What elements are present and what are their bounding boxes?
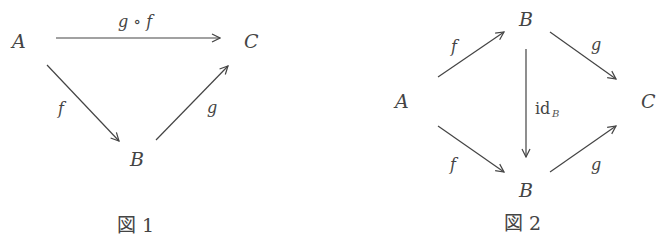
arrow-b-bottom-to-c <box>550 126 616 172</box>
arrow-label-g-top: g <box>591 35 601 54</box>
object-b-bottom: B <box>518 179 533 201</box>
arrow-label-f-bottom: f <box>449 155 459 174</box>
arrow-label-f: f <box>57 99 67 118</box>
arrow-b-top-to-c <box>550 32 616 79</box>
figure-2-caption: 図 2 <box>504 212 541 234</box>
object-a: A <box>393 90 409 112</box>
object-b-top: B <box>518 8 533 30</box>
arrow-label-id-subscript: B <box>551 108 559 119</box>
arrow-label-g-compose-f: g ∘ f <box>118 12 155 31</box>
arrow-a-to-b-bottom <box>438 126 504 172</box>
figure-1: A C B g ∘ f f g 図 1 <box>10 12 259 236</box>
object-a: A <box>10 30 26 52</box>
object-c: C <box>641 90 656 112</box>
object-c: C <box>244 30 259 52</box>
arrow-label-id: id <box>535 99 550 118</box>
arrow-label-g-bottom: g <box>591 155 601 174</box>
arrow-label-g: g <box>207 98 217 117</box>
object-b: B <box>129 148 144 170</box>
figure-2: B A C B f g id B f g 図 2 <box>393 8 656 234</box>
arrow-label-f-top: f <box>450 37 460 56</box>
diagrams-canvas: A C B g ∘ f f g 図 1 B A C B f g id B f g… <box>0 0 665 249</box>
figure-1-caption: 図 1 <box>117 214 154 236</box>
arrow-a-to-b-top <box>438 32 504 77</box>
